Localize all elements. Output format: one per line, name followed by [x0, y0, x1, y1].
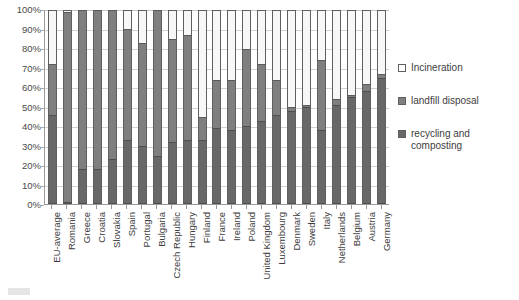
x-axis-labels: EU-averageRomaniaGreeceCroatiaSlovakiaSp… [44, 212, 389, 298]
bar-italy[interactable] [317, 10, 326, 204]
x-axis-tick-mark [122, 205, 131, 210]
x-axis-label-france: France [212, 212, 221, 298]
bar-segment-recycling-composting [48, 115, 57, 204]
bar-segment-incineration [257, 10, 266, 64]
bar-segment-landfill-disposal [123, 29, 132, 140]
y-axis-tick-label: 100% [1, 5, 41, 15]
incineration-swatch-icon [398, 64, 406, 72]
plot-area [44, 10, 389, 205]
x-axis-tick-mark [257, 205, 266, 210]
x-axis-tick-mark [377, 205, 386, 210]
bar-romania[interactable] [63, 10, 72, 204]
bar-segment-recycling-composting [347, 97, 356, 204]
bar-segment-recycling-composting [317, 130, 326, 204]
chart-legend: Incineration landfill disposal recycling… [398, 62, 516, 173]
bar-germany[interactable] [377, 10, 386, 204]
bar-segment-landfill-disposal [48, 64, 57, 114]
x-axis-ticks [44, 205, 389, 210]
bar-france[interactable] [212, 10, 221, 204]
x-axis-label-spain: Spain [122, 212, 131, 298]
x-axis-label-text: Germany [382, 212, 392, 251]
x-axis-label-croatia: Croatia [92, 212, 101, 298]
bar-segment-incineration [242, 10, 251, 49]
bar-sweden[interactable] [302, 10, 311, 204]
bar-segment-incineration [317, 10, 326, 60]
x-axis-label-ireland: Ireland [227, 212, 236, 298]
bar-segment-landfill-disposal [212, 80, 221, 129]
x-axis-tick-mark [317, 205, 326, 210]
bar-segment-incineration [287, 10, 296, 107]
x-axis-tick-mark [332, 205, 341, 210]
bar-austria[interactable] [362, 10, 371, 204]
bar-segment-incineration [347, 10, 356, 95]
x-axis-tick-mark [197, 205, 206, 210]
bar-belgium[interactable] [347, 10, 356, 204]
x-axis-tick-mark [107, 205, 116, 210]
bar-segment-incineration [272, 10, 281, 80]
y-axis-tick-label: 80% [1, 44, 41, 54]
bar-segment-recycling-composting [257, 121, 266, 204]
bar-denmark[interactable] [287, 10, 296, 204]
y-axis-tick-label: 20% [1, 161, 41, 171]
x-axis-tick-mark [302, 205, 311, 210]
scan-artifact [8, 288, 30, 295]
x-axis-label-austria: Austria [362, 212, 371, 298]
bar-spain[interactable] [123, 10, 132, 204]
bar-segment-recycling-composting [63, 202, 72, 204]
x-axis-label-text: Ireland [232, 212, 242, 241]
bar-segment-recycling-composting [227, 130, 236, 204]
bar-hungary[interactable] [183, 10, 192, 204]
x-axis-label-text: Poland [247, 212, 257, 242]
bar-portugal[interactable] [138, 10, 147, 204]
stacked-bar-chart: 100%90%80%70%60%50%40%30%20%10%0% EU-ave… [0, 0, 519, 300]
bar-segment-landfill-disposal [93, 10, 102, 169]
bar-segment-landfill-disposal [78, 10, 87, 169]
x-axis-label-eu-average: EU-average [47, 212, 56, 298]
legend-item-incineration: Incineration [398, 62, 516, 74]
x-axis-label-sweden: Sweden [302, 212, 311, 298]
bar-segment-landfill-disposal [168, 39, 177, 142]
bar-ireland[interactable] [227, 10, 236, 204]
x-axis-tick-mark [272, 205, 281, 210]
bar-greece[interactable] [78, 10, 87, 204]
x-axis-tick-mark [347, 205, 356, 210]
bar-united-kingdom[interactable] [257, 10, 266, 204]
x-axis-label-czech-republic: Czech Republic [167, 212, 176, 298]
bar-segment-recycling-composting [242, 126, 251, 204]
bar-croatia[interactable] [93, 10, 102, 204]
bar-poland[interactable] [242, 10, 251, 204]
x-axis-label-text: Austria [367, 212, 377, 242]
bar-segment-incineration [48, 10, 57, 64]
bar-segment-recycling-composting [332, 105, 341, 204]
x-axis-tick-mark [77, 205, 86, 210]
bar-segment-recycling-composting [362, 91, 371, 204]
bar-eu-average[interactable] [48, 10, 57, 204]
x-axis-label-text: Sweden [307, 212, 317, 246]
bar-segment-incineration [183, 10, 192, 35]
recycling-swatch-icon [398, 130, 406, 138]
bar-luxembourg[interactable] [272, 10, 281, 204]
landfill-swatch-icon [398, 97, 406, 105]
x-axis-tick-mark [287, 205, 296, 210]
bar-segment-recycling-composting [198, 140, 207, 204]
x-axis-label-text: Italy [322, 212, 332, 229]
bar-segment-incineration [198, 10, 207, 117]
bar-finland[interactable] [198, 10, 207, 204]
bar-segment-recycling-composting [138, 146, 147, 204]
x-axis-label-poland: Poland [242, 212, 251, 298]
bar-slovakia[interactable] [108, 10, 117, 204]
x-axis-label-belgium: Belgium [347, 212, 356, 298]
x-axis-tick-mark [362, 205, 371, 210]
bar-segment-landfill-disposal [153, 10, 162, 156]
x-axis-label-text: Hungary [187, 212, 197, 248]
y-axis-tick-label: 0% [1, 200, 41, 210]
x-axis-label-text: Luxembourg [277, 212, 287, 265]
x-axis-label-denmark: Denmark [287, 212, 296, 298]
bar-czech-republic[interactable] [168, 10, 177, 204]
bar-bulgaria[interactable] [153, 10, 162, 204]
bar-netherlands[interactable] [332, 10, 341, 204]
y-axis-tick-label: 70% [1, 64, 41, 74]
legend-label-landfill-disposal: landfill disposal [411, 95, 479, 107]
y-axis-tick-label: 40% [1, 122, 41, 132]
bar-segment-landfill-disposal [317, 60, 326, 130]
